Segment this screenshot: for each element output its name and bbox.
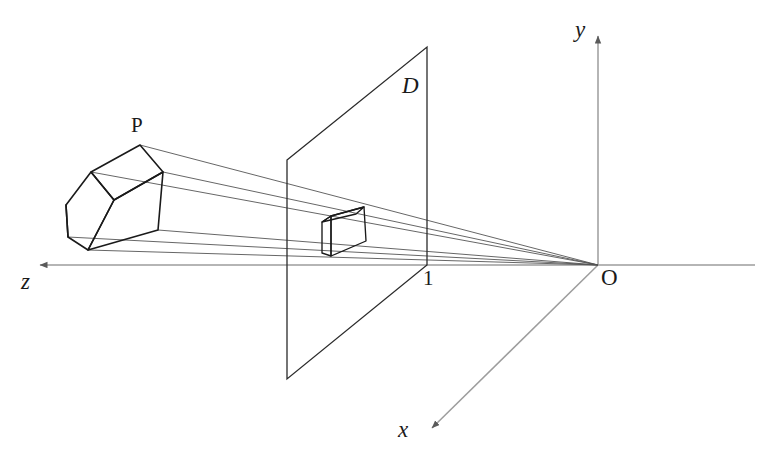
object-box-lower-edge <box>66 205 68 237</box>
projection-ray <box>68 237 598 265</box>
projection-ray <box>88 250 598 265</box>
projection-ray <box>91 172 598 265</box>
object-box-group <box>66 145 163 250</box>
object-label: P <box>131 115 143 136</box>
projection-rays-group <box>68 145 598 265</box>
z-axis-label: z <box>21 270 30 293</box>
x-axis <box>432 265 598 428</box>
image-plane-label: D <box>402 74 419 97</box>
projection-ray <box>163 172 598 265</box>
origin-label: O <box>601 266 618 289</box>
perspective-projection-figure <box>0 0 770 465</box>
y-axis-label: y <box>575 18 585 41</box>
focal-distance-label: 1 <box>423 268 434 289</box>
axes-group <box>40 36 755 428</box>
x-axis-label: x <box>398 418 408 441</box>
diagram-canvas: y x z O D P 1 <box>0 0 770 465</box>
